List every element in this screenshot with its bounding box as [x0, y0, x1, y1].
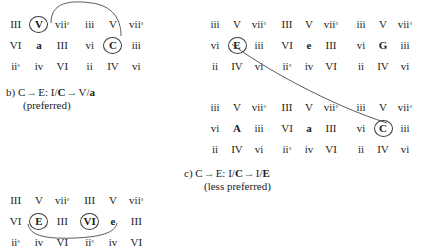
- chord-matrix-right-top-c: iiiVvii°viGiiiiiIVvi: [350, 14, 416, 77]
- caption-b: b) C→E: I/C→V/a (preferred): [6, 86, 95, 112]
- chord-iv: iv: [304, 144, 315, 155]
- chord-iv: iv: [304, 61, 315, 72]
- chord-ii: ii: [211, 61, 219, 72]
- chord-III: III: [130, 216, 143, 227]
- chord-V: V: [378, 102, 388, 113]
- chord-vii: vii°: [128, 19, 144, 30]
- chord-vi: vi: [210, 123, 221, 134]
- chord-e: e: [110, 216, 117, 227]
- chord-V: V: [232, 19, 242, 30]
- chord-ii: ii°: [84, 237, 95, 248]
- chord-vii: vii°: [54, 195, 70, 206]
- arrow-right-icon-3: →: [203, 167, 216, 179]
- caption-c-to: E:: [216, 167, 226, 179]
- caption-b-term2-key: a: [89, 86, 95, 98]
- chord-VI: VI: [56, 61, 70, 72]
- chord-matrix-left-top-a: IIIVvii°VIaIIIii°ivVI: [4, 14, 74, 77]
- caption-b-note: (preferred): [6, 99, 95, 112]
- chord-matrix-right-top-a: iiiVvii°viEiiiiiIVvi: [204, 14, 270, 77]
- caption-b-to: E:: [38, 86, 48, 98]
- chord-ii: ii: [211, 144, 219, 155]
- chord-vi: vi: [254, 61, 265, 72]
- chord-iii: iii: [355, 102, 366, 113]
- chord-VI: VI: [9, 216, 23, 227]
- chord-VI: VI: [280, 123, 294, 134]
- caption-c-label: c): [184, 167, 193, 179]
- chord-V: V: [108, 19, 118, 30]
- chord-a: a: [35, 40, 43, 51]
- chord-VI: VI: [9, 40, 23, 51]
- chord-vii: vii°: [323, 19, 339, 30]
- chord-III: III: [325, 40, 338, 51]
- chord-V: V: [232, 102, 242, 113]
- chord-III: III: [56, 216, 69, 227]
- caption-c-term1-key: C: [235, 167, 243, 179]
- chord-matrix-left-bottom-b: IIIVvii°VIeIIIii°ivVI: [78, 190, 148, 250]
- chord-vi: vi: [210, 40, 221, 51]
- chord-C-circled: C: [374, 120, 393, 137]
- caption-b-term1: I/: [51, 86, 58, 98]
- chord-ii: ii: [357, 144, 365, 155]
- chord-III: III: [9, 19, 22, 30]
- chord-III: III: [281, 19, 294, 30]
- chord-matrix-right-bottom-b: IIIVvii°VIaIIIii°ivVI: [276, 97, 342, 160]
- chord-VI-circled: VI: [80, 213, 99, 230]
- caption-c-line1: c) C→E: I/C→I/E: [184, 167, 270, 179]
- chord-vii: vii°: [251, 102, 267, 113]
- chord-vi: vi: [84, 40, 95, 51]
- chord-iv: iv: [108, 237, 119, 248]
- chord-vi: vi: [356, 40, 367, 51]
- chord-iii: iii: [355, 19, 366, 30]
- chord-iii: iii: [399, 40, 410, 51]
- chord-IV: IV: [106, 61, 120, 72]
- chord-ii: ii: [86, 61, 94, 72]
- chord-iii: iii: [253, 40, 264, 51]
- chord-iv: iv: [34, 237, 45, 248]
- chord-vi: vi: [254, 144, 265, 155]
- chord-matrix-right-top-b: IIIVvii°VIeIIIii°ivVI: [276, 14, 342, 77]
- chord-iii: iii: [131, 40, 142, 51]
- caption-c-from: C: [195, 167, 202, 179]
- chord-iii: iii: [253, 123, 264, 134]
- chord-iii: iii: [209, 102, 220, 113]
- chord-ii: ii°: [10, 61, 21, 72]
- chord-ii: ii°: [10, 237, 21, 248]
- chord-ii: ii°: [282, 144, 293, 155]
- chord-III: III: [281, 102, 294, 113]
- chord-matrix-left-bottom-a: IIIVvii°VIEIIIii°ivVI: [4, 190, 74, 250]
- arrow-right-icon-2: →: [65, 86, 78, 98]
- chord-vi: vi: [400, 144, 411, 155]
- chord-III: III: [83, 195, 96, 206]
- chord-e: e: [306, 40, 313, 51]
- chord-VI: VI: [280, 40, 294, 51]
- chord-VI: VI: [324, 61, 338, 72]
- chord-III: III: [325, 123, 338, 134]
- chord-vii: vii°: [54, 19, 70, 30]
- chord-C-circled: C: [103, 37, 122, 54]
- chord-matrix-right-bottom-c: iiiVvii°viCiiiiiIVvi: [350, 97, 416, 160]
- chord-ii: ii°: [282, 61, 293, 72]
- caption-c-term2: I/: [256, 167, 263, 179]
- chord-iii: iii: [399, 123, 410, 134]
- chord-IV: IV: [230, 61, 244, 72]
- chord-V: V: [304, 102, 314, 113]
- caption-c-term2-key: E: [263, 167, 270, 179]
- chord-VI: VI: [130, 237, 144, 248]
- chord-vi: vi: [400, 61, 411, 72]
- chord-matrix-right-bottom-a: iiiVvii°viAiiiiiIVvi: [204, 97, 270, 160]
- chord-vii: vii°: [397, 102, 413, 113]
- caption-c-note: (less preferred): [184, 180, 271, 193]
- chord-V: V: [108, 195, 118, 206]
- arrow-right-icon-4: →: [243, 167, 256, 179]
- chord-E-circled: E: [228, 37, 247, 54]
- chord-VI: VI: [324, 144, 338, 155]
- chord-IV: IV: [230, 144, 244, 155]
- chord-A: A: [232, 123, 242, 134]
- chord-vi: vi: [131, 61, 142, 72]
- caption-b-line1: b) C→E: I/C→V/a: [6, 86, 95, 98]
- chord-iii: iii: [209, 19, 220, 30]
- chord-vii: vii°: [323, 102, 339, 113]
- chord-vii: vii°: [251, 19, 267, 30]
- chord-E-circled: E: [29, 213, 48, 230]
- chord-V: V: [34, 195, 44, 206]
